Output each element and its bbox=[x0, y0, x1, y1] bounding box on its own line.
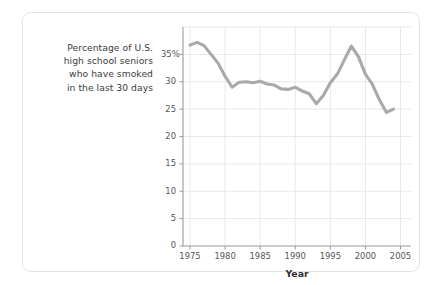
y-tick-label: 35% bbox=[161, 49, 176, 59]
caption-line-3: who have smoked bbox=[27, 67, 153, 80]
x-tick-label: 1995 bbox=[310, 251, 350, 261]
y-tick-label: 20 bbox=[161, 131, 176, 141]
y-tick-label: 30 bbox=[161, 76, 176, 86]
caption-line-1: Percentage of U.S. bbox=[27, 41, 153, 54]
caption-line-4: in the last 30 days bbox=[27, 81, 153, 94]
y-tick-label: 25 bbox=[161, 104, 176, 114]
line-chart: 05101520253035% 197519801985199019952000… bbox=[161, 21, 413, 266]
x-tick-label: 2005 bbox=[380, 251, 420, 261]
y-tick-label: 0 bbox=[161, 240, 176, 250]
chart-svg bbox=[161, 21, 413, 266]
y-tick-label: 15 bbox=[161, 158, 176, 168]
x-tick-label: 1985 bbox=[240, 251, 280, 261]
x-tick-label: 2000 bbox=[345, 251, 385, 261]
x-axis-title: Year bbox=[183, 268, 411, 279]
x-tick-label: 1990 bbox=[275, 251, 315, 261]
caption-line-2: high school seniors bbox=[27, 54, 153, 67]
x-tick-label: 1975 bbox=[170, 251, 210, 261]
chart-caption: Percentage of U.S. high school seniors w… bbox=[27, 41, 153, 94]
y-tick-label: 10 bbox=[161, 186, 176, 196]
figure-card: Percentage of U.S. high school seniors w… bbox=[22, 12, 420, 272]
x-tick-label: 1980 bbox=[205, 251, 245, 261]
y-tick-label: 5 bbox=[161, 213, 176, 223]
